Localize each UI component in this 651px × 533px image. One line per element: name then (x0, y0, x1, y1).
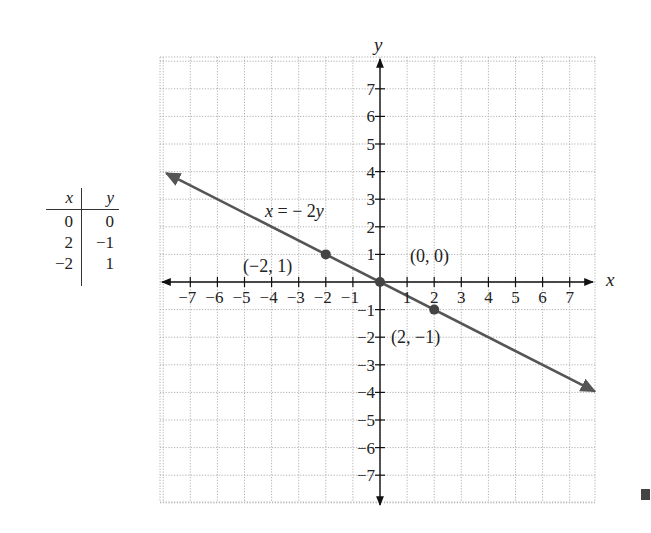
x-tick-label: −3 (287, 288, 305, 307)
x-tick-label: −5 (232, 288, 250, 307)
y-tick-label: 2 (367, 218, 376, 237)
equation-label: x = − 2y (264, 201, 324, 221)
x-tick-label: −7 (178, 288, 197, 307)
y-tick-label: 7 (367, 80, 376, 99)
x-tick-label: 3 (457, 288, 466, 307)
x-tick-label: 6 (538, 288, 547, 307)
point-label-2-neg1: (2, −1) (391, 327, 440, 348)
x-tick-label: 4 (484, 288, 493, 307)
data-point (321, 249, 331, 259)
data-point (375, 277, 385, 287)
figure: x y 0 0 2 −1 −2 1 −7−6−5−4−3 (0, 0, 651, 533)
x-tick-label: 7 (565, 288, 574, 307)
y-tick-label: −3 (357, 356, 375, 375)
y-tick-label: −5 (357, 411, 375, 430)
y-tick-label: −1 (357, 301, 375, 320)
y-tick-label: −7 (357, 466, 376, 485)
end-of-example-mark (641, 489, 650, 500)
x-tick-label: −4 (260, 288, 279, 307)
x-axis-label: x (605, 269, 615, 290)
y-tick-label: 4 (367, 163, 376, 182)
y-tick-label: −6 (357, 439, 375, 458)
x-tick-label: −6 (205, 288, 223, 307)
y-tick-label: 5 (367, 135, 376, 154)
y-tick-label: −2 (357, 328, 375, 347)
y-tick-label: 3 (367, 190, 376, 209)
coordinate-plane: −7−6−5−4−3−2−11234567−7−6−5−4−3−2−112345… (0, 0, 651, 533)
y-axis-label: y (372, 34, 383, 55)
y-tick-label: 1 (367, 245, 376, 264)
annotations: −7−6−5−4−3−2−11234567−7−6−5−4−3−2−112345… (178, 34, 615, 485)
x-tick-label: 1 (403, 288, 412, 307)
y-tick-label: 6 (367, 107, 376, 126)
x-tick-label: 2 (430, 288, 439, 307)
x-tick-label: 5 (511, 288, 520, 307)
y-tick-label: −4 (357, 383, 376, 402)
x-tick-label: −2 (314, 288, 332, 307)
point-label-0-0: (0, 0) (410, 246, 449, 267)
point-label-neg2-1: (−2, 1) (243, 256, 292, 277)
